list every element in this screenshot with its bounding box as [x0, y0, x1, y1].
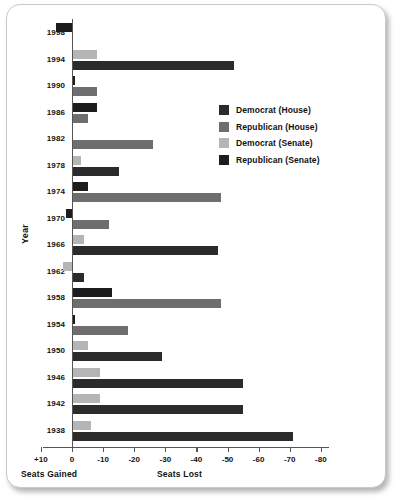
year-label-1990: 1990 — [25, 81, 65, 90]
bar-1982-rep_house — [72, 140, 153, 149]
x-tick-label--80: -80 — [306, 455, 336, 464]
bar-1974-rep_house — [72, 193, 221, 202]
year-label-1978: 1978 — [25, 161, 65, 170]
bar-1986-rep_house — [72, 114, 88, 123]
legend-swatch-icon-0 — [219, 105, 229, 115]
year-label-1974: 1974 — [25, 187, 65, 196]
legend-swatch-icon-1 — [219, 122, 229, 132]
legend-swatch-icon-3 — [219, 155, 229, 165]
bar-1958-rep_house — [72, 299, 221, 308]
x-tick--50 — [228, 447, 229, 452]
bar-1946-dem_senate — [72, 368, 100, 377]
year-label-1954: 1954 — [25, 320, 65, 329]
x-tick--30 — [165, 447, 166, 452]
x-tick-+10 — [41, 447, 42, 452]
bar-1950-dem_house — [72, 352, 162, 361]
plot-area: Year 19981994199019861982197819741970196… — [7, 5, 387, 489]
bar-1974-rep_senate — [72, 182, 88, 191]
legend-item-3: Republican (Senate) — [219, 153, 369, 167]
x-tick-label--30: -30 — [150, 455, 180, 464]
x-tick-0 — [72, 447, 73, 452]
legend: Democrat (House)Republican (House)Democr… — [219, 103, 369, 169]
x-tick--20 — [134, 447, 135, 452]
x-axis-line — [43, 447, 329, 448]
legend-item-2: Democrat (Senate) — [219, 136, 369, 150]
bar-1978-dem_house — [72, 167, 119, 176]
year-label-1970: 1970 — [25, 214, 65, 223]
x-tick-label--70: -70 — [275, 455, 305, 464]
legend-label-1: Republican (House) — [236, 122, 318, 132]
x-tick--10 — [103, 447, 104, 452]
bar-1954-rep_house — [72, 326, 128, 335]
bar-1942-dem_house — [72, 405, 243, 414]
legend-swatch-icon-2 — [219, 138, 229, 148]
year-label-1958: 1958 — [25, 293, 65, 302]
legend-label-3: Republican (Senate) — [236, 155, 320, 165]
year-label-1962: 1962 — [25, 267, 65, 276]
year-label-1966: 1966 — [25, 240, 65, 249]
seats-lost-label: Seats Lost — [157, 469, 202, 479]
x-tick--80 — [321, 447, 322, 452]
bar-1978-dem_senate — [72, 156, 81, 165]
bar-1998-rep_senate — [56, 23, 72, 32]
bar-1962-dem_house — [72, 273, 84, 282]
bar-1970-rep_house — [72, 220, 109, 229]
bar-1994-dem_senate — [72, 50, 97, 59]
legend-label-2: Democrat (Senate) — [236, 138, 313, 148]
year-label-1994: 1994 — [25, 55, 65, 64]
x-tick--40 — [196, 447, 197, 452]
year-label-1986: 1986 — [25, 108, 65, 117]
legend-item-1: Republican (House) — [219, 120, 369, 134]
bar-1994-dem_house — [72, 61, 234, 70]
legend-item-0: Democrat (House) — [219, 103, 369, 117]
x-tick--70 — [290, 447, 291, 452]
chart-card: Year 19981994199019861982197819741970196… — [6, 4, 386, 488]
year-label-1942: 1942 — [25, 399, 65, 408]
year-label-1946: 1946 — [25, 373, 65, 382]
zero-line — [72, 19, 73, 447]
bar-1990-rep_house — [72, 87, 97, 96]
year-label-1950: 1950 — [25, 346, 65, 355]
bar-1986-rep_senate — [72, 103, 97, 112]
x-tick-label-+10: +10 — [26, 455, 56, 464]
bar-1942-dem_senate — [72, 394, 100, 403]
x-tick-label--50: -50 — [213, 455, 243, 464]
year-label-1938: 1938 — [25, 426, 65, 435]
bar-1946-dem_house — [72, 379, 243, 388]
legend-label-0: Democrat (House) — [236, 105, 311, 115]
seats-gained-label: Seats Gained — [21, 469, 77, 479]
bar-1966-dem_house — [72, 246, 218, 255]
x-tick-label--60: -60 — [244, 455, 274, 464]
bar-1938-dem_house — [72, 432, 293, 441]
bar-1966-dem_senate — [72, 235, 84, 244]
x-tick--60 — [259, 447, 260, 452]
bar-1958-rep_senate — [72, 288, 112, 297]
x-tick-label--20: -20 — [119, 455, 149, 464]
x-tick-label-0: 0 — [57, 455, 87, 464]
bar-1962-dem_senate — [63, 262, 72, 271]
bar-1938-dem_senate — [72, 421, 91, 430]
bar-1950-dem_senate — [72, 341, 88, 350]
x-tick-label--40: -40 — [181, 455, 211, 464]
year-label-1982: 1982 — [25, 134, 65, 143]
x-tick-label--10: -10 — [88, 455, 118, 464]
